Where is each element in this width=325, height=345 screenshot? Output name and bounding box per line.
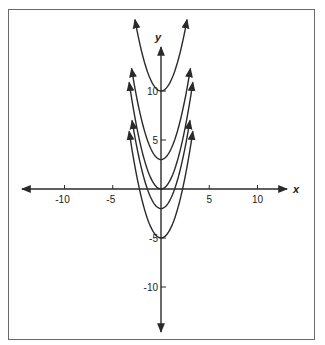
x-tick-label: 5: [206, 194, 212, 205]
y-tick-label: 5: [152, 135, 158, 146]
y-tick-label: -5: [149, 233, 158, 244]
x-tick-label: -10: [55, 194, 70, 205]
x-axis-label: x: [292, 183, 300, 195]
y-axis-label: y: [154, 31, 162, 43]
y-tick-label: 10: [147, 86, 159, 97]
parabola-chart: -10-5510105-5-10xy: [0, 0, 325, 345]
x-tick-label: -5: [106, 194, 115, 205]
x-tick-label: 10: [252, 194, 264, 205]
y-tick-label: -10: [144, 282, 159, 293]
